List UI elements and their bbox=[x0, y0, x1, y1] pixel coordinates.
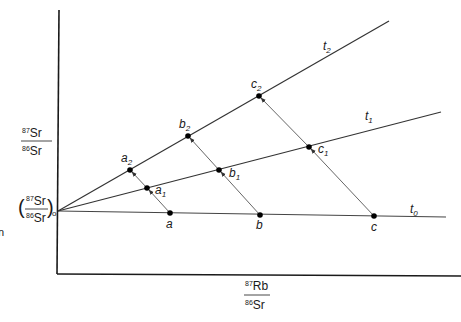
sample-points bbox=[127, 93, 377, 219]
label-a: a bbox=[166, 217, 173, 231]
point-a bbox=[167, 210, 173, 216]
isochron-diagram: a a1 a2 b b1 b2 c c1 c2 t0 t1 t2 87Sr 86… bbox=[0, 0, 461, 322]
label-t0: t0 bbox=[410, 202, 418, 218]
y-axis bbox=[57, 10, 59, 274]
svg-text:87Sr: 87Sr bbox=[22, 126, 42, 140]
point-b bbox=[257, 212, 263, 218]
point-a2 bbox=[127, 167, 133, 173]
point-b2 bbox=[185, 133, 191, 139]
arrow-b-b1 bbox=[221, 172, 260, 215]
arrow-a1-a2 bbox=[132, 172, 147, 188]
label-a2: a2 bbox=[121, 151, 133, 167]
label-t1: t1 bbox=[365, 109, 373, 125]
arrow-c1-c2 bbox=[261, 98, 309, 147]
intercept-label: ( 87Sr 86Sr ) o bbox=[18, 194, 57, 225]
axes bbox=[57, 10, 461, 276]
svg-text:87Sr: 87Sr bbox=[26, 194, 46, 208]
label-a1: a1 bbox=[155, 183, 166, 199]
y-axis-label: 87Sr 86Sr bbox=[21, 126, 52, 158]
arrow-b1-b2 bbox=[190, 138, 219, 170]
label-b2: b2 bbox=[179, 117, 191, 133]
isochron-labels: t0 t1 t2 bbox=[323, 39, 418, 218]
label-b: b bbox=[256, 218, 263, 232]
arrow-c-c1 bbox=[311, 149, 374, 216]
svg-text:87Rb: 87Rb bbox=[245, 279, 268, 293]
label-c: c bbox=[371, 220, 377, 234]
evolution-arrows bbox=[132, 98, 374, 216]
edge-text-fragment: n bbox=[0, 226, 4, 238]
isochron-lines bbox=[58, 21, 446, 217]
x-axis-label: 87Rb 86Sr bbox=[244, 279, 270, 312]
label-b1: b1 bbox=[229, 166, 240, 182]
svg-text:86Sr: 86Sr bbox=[26, 211, 46, 225]
svg-text:(: ( bbox=[18, 196, 25, 218]
label-t2: t2 bbox=[323, 39, 331, 55]
point-c2 bbox=[256, 93, 262, 99]
svg-text:86Sr: 86Sr bbox=[245, 298, 265, 312]
point-a1 bbox=[144, 185, 150, 191]
svg-text:86Sr: 86Sr bbox=[22, 144, 42, 158]
svg-text:o: o bbox=[52, 209, 57, 218]
point-c bbox=[371, 213, 377, 219]
point-c1 bbox=[306, 144, 312, 150]
x-axis bbox=[57, 274, 461, 276]
point-b1 bbox=[216, 167, 222, 173]
label-c2: c2 bbox=[251, 77, 262, 93]
isochron-t1 bbox=[58, 112, 441, 211]
point-labels: a a1 a2 b b1 b2 c c1 c2 bbox=[121, 77, 377, 234]
isochron-t2 bbox=[58, 21, 389, 211]
label-c1: c1 bbox=[318, 142, 328, 158]
isochron-t0 bbox=[58, 211, 446, 217]
